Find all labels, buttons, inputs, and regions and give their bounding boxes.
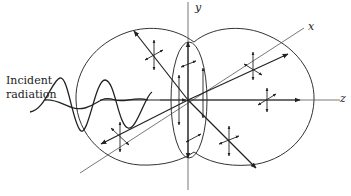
incident-radiation-label: Incident radiation xyxy=(6,74,57,102)
incident-label-line2: radiation xyxy=(6,88,57,102)
axes xyxy=(80,2,340,190)
z-axis-label: z xyxy=(340,93,346,104)
y-axis-label: y xyxy=(195,2,201,13)
incident-label-line1: Incident xyxy=(6,74,57,88)
x-axis-label: x xyxy=(308,21,314,32)
